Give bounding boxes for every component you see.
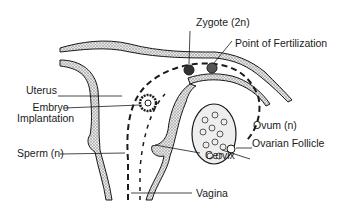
label-follicle: Ovarian Follicle bbox=[252, 138, 324, 149]
label-fertilization: Point of Fertilization bbox=[235, 38, 327, 49]
label-zygote: Zygote (2n) bbox=[196, 17, 250, 28]
label-cervix: Cervix bbox=[205, 150, 235, 161]
embryo bbox=[140, 95, 156, 111]
label-embryo: Embryo Implantation bbox=[17, 102, 74, 124]
tube-lower-wall bbox=[188, 74, 270, 106]
fertilized-egg bbox=[207, 63, 217, 73]
uterus-left-wall bbox=[60, 60, 112, 200]
label-sperm: Sperm (n) bbox=[17, 148, 64, 159]
label-uterus: Uterus bbox=[26, 85, 57, 96]
label-ovum: Ovum (n) bbox=[253, 120, 297, 131]
label-embryo-line2: Implantation bbox=[17, 113, 74, 124]
label-vagina: Vagina bbox=[196, 188, 228, 199]
zygote bbox=[184, 65, 194, 75]
